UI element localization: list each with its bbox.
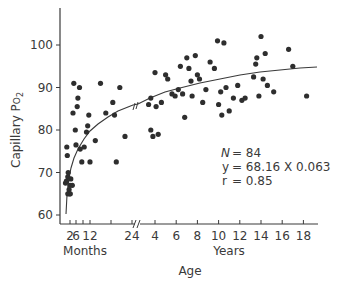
data-point	[93, 138, 98, 143]
data-point	[223, 85, 228, 90]
x-tick-label: 10	[211, 229, 226, 243]
data-point	[77, 85, 82, 90]
data-point	[87, 159, 92, 164]
data-point	[156, 132, 161, 137]
data-point	[231, 96, 236, 101]
data-point	[197, 76, 202, 81]
data-point	[286, 47, 291, 52]
x-axis-label: Age	[178, 264, 201, 278]
data-point	[64, 144, 69, 149]
data-point	[186, 66, 191, 71]
data-point	[256, 93, 261, 98]
data-point	[66, 170, 71, 175]
svg-text:= 0.85: = 0.85	[232, 174, 273, 188]
scatter-chart: 60708090100 2612244681012141618 Capillar…	[0, 0, 337, 294]
data-point	[208, 59, 213, 64]
data-point	[79, 159, 84, 164]
data-point	[152, 70, 157, 75]
x-tick-label: 24	[124, 229, 139, 243]
curve-break-icon	[133, 102, 138, 110]
data-point	[148, 127, 153, 132]
data-point	[65, 153, 70, 158]
data-point	[82, 144, 87, 149]
data-point	[70, 110, 75, 115]
data-point	[188, 79, 193, 84]
data-point	[178, 64, 183, 69]
x-tick-label: 6	[72, 229, 80, 243]
data-point	[165, 76, 170, 81]
data-point	[180, 91, 185, 96]
data-point	[290, 64, 295, 69]
y-axis-label: Capillary PO2	[9, 92, 25, 168]
x-tick-label: 14	[253, 229, 268, 243]
data-point	[176, 87, 181, 92]
data-point	[221, 40, 226, 45]
stats-annotation: N = 84 y = 68.16 X 0.063 r = 0.85	[221, 146, 330, 188]
data-point	[70, 183, 75, 188]
data-point	[85, 123, 90, 128]
data-point	[117, 85, 122, 90]
x-tick-label: 8	[194, 229, 202, 243]
x-tick-label: 12	[82, 229, 97, 243]
data-point	[159, 100, 164, 105]
data-point	[216, 102, 221, 107]
data-point	[68, 191, 73, 196]
data-point	[212, 66, 217, 71]
data-point	[235, 83, 240, 88]
x-tick-label: 18	[296, 229, 311, 243]
data-point	[73, 142, 78, 147]
svg-text:= 68.16 X 0.063: = 68.16 X 0.063	[232, 160, 330, 174]
data-point	[86, 113, 91, 118]
axis-break-icon	[133, 220, 140, 228]
data-point	[219, 113, 224, 118]
y-tick-label: 100	[30, 38, 53, 52]
data-point	[110, 100, 115, 105]
data-point	[190, 93, 195, 98]
y-tick-label: 60	[38, 208, 53, 222]
x-tick-label: 4	[151, 229, 159, 243]
data-point	[146, 102, 151, 107]
y-tick-label: 70	[38, 166, 53, 180]
data-point	[84, 130, 89, 135]
data-point	[75, 104, 80, 109]
data-point	[103, 110, 108, 115]
data-point	[253, 62, 258, 67]
y-tick-label: 90	[38, 81, 53, 95]
svg-text:r: r	[222, 174, 227, 188]
data-point	[263, 51, 268, 56]
x-tick-label: 6	[172, 229, 180, 243]
data-point	[150, 134, 155, 139]
x-segment-label-months: Months	[63, 244, 107, 258]
data-point	[218, 89, 223, 94]
y-ticks: 60708090100	[30, 38, 60, 222]
x-segment-label-years: Years	[212, 244, 245, 258]
svg-text:y: y	[222, 160, 229, 174]
data-point	[184, 55, 189, 60]
data-point	[304, 93, 309, 98]
data-point	[154, 104, 159, 109]
x-tick-label: 12	[232, 229, 247, 243]
data-point	[114, 159, 119, 164]
data-point	[203, 87, 208, 92]
data-point	[68, 176, 73, 181]
x-tick-label: 16	[275, 229, 290, 243]
data-point	[122, 134, 127, 139]
data-point	[193, 53, 198, 58]
fit-curve	[66, 67, 317, 214]
data-point	[75, 96, 80, 101]
data-point	[182, 115, 187, 120]
data-point	[251, 74, 256, 79]
data-point	[265, 83, 270, 88]
data-point	[98, 81, 103, 86]
data-point	[271, 89, 276, 94]
data-point	[261, 76, 266, 81]
data-point	[200, 100, 205, 105]
data-point	[112, 113, 117, 118]
data-point	[173, 93, 178, 98]
data-point	[148, 96, 153, 101]
svg-text:N: N	[221, 146, 230, 160]
y-tick-label: 80	[38, 123, 53, 137]
data-point	[71, 81, 76, 86]
svg-text:= 84: = 84	[232, 146, 261, 160]
data-point	[227, 108, 232, 113]
